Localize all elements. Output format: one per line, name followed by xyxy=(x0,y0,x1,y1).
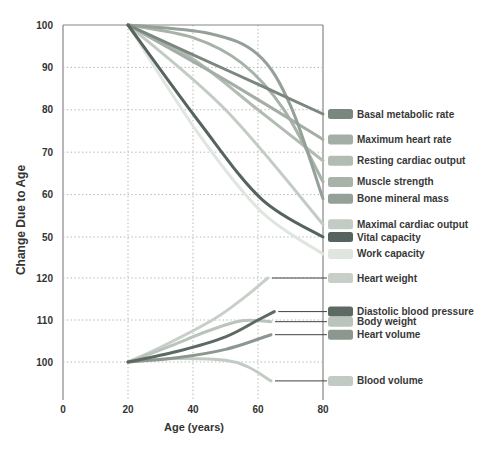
y-axis-title: Change Due to Age xyxy=(14,165,28,276)
legend-swatch-heart-volume xyxy=(328,330,353,340)
y-tick-label-declining-functions-100: 100 xyxy=(36,20,53,31)
legend-label-heart-volume: Heart volume xyxy=(357,329,421,340)
x-tick-label-40: 40 xyxy=(187,404,199,415)
y-tick-label-declining-functions-90: 90 xyxy=(42,62,54,73)
legend-label-vital-capacity: Vital capacity xyxy=(357,232,421,243)
legend-item-heart-weight: Heart weight xyxy=(328,273,418,284)
legend-label-heart-weight: Heart weight xyxy=(357,273,418,284)
x-tick-label-0: 0 xyxy=(60,404,66,415)
legend-swatch-muscle-strength xyxy=(328,177,353,187)
aging-chart: 1009080706050120110100020406080 Basal me… xyxy=(0,0,492,450)
legend-item-maximum-heart-rate: Maximum heart rate xyxy=(328,134,452,145)
legend-item-heart-volume: Heart volume xyxy=(328,329,421,340)
legend-item-basal-metabolic-rate: Basal metabolic rate xyxy=(328,109,455,120)
legend-item-bone-mineral-mass: Bone mineral mass xyxy=(328,193,449,204)
y-tick-label-increasing-functions-110: 110 xyxy=(37,315,54,326)
series-layer xyxy=(128,25,323,381)
y-tick-label-declining-functions-60: 60 xyxy=(42,189,54,200)
legend-item-resting-cardiac-output: Resting cardiac output xyxy=(328,155,466,166)
y-tick-label-increasing-functions-120: 120 xyxy=(36,273,53,284)
legend-swatch-vital-capacity xyxy=(328,232,353,242)
x-tick-label-80: 80 xyxy=(317,404,329,415)
y-tick-label-declining-functions-50: 50 xyxy=(42,232,54,243)
legend-label-maximal-cardiac-output: Maximal cardiac output xyxy=(357,219,469,230)
x-tick-label-60: 60 xyxy=(252,404,264,415)
legend-label-body-weight: Body weight xyxy=(357,316,417,327)
legend-swatch-heart-weight xyxy=(328,273,353,283)
legend-label-basal-metabolic-rate: Basal metabolic rate xyxy=(357,109,455,120)
legend-swatch-maximal-cardiac-output xyxy=(328,219,353,229)
y-tick-label-declining-functions-80: 80 xyxy=(42,104,54,115)
x-axis-title: Age (years) xyxy=(164,421,224,433)
legend-swatch-diastolic-blood-pressure xyxy=(328,307,353,317)
legend-swatch-bone-mineral-mass xyxy=(328,194,353,204)
legend-item-maximal-cardiac-output: Maximal cardiac output xyxy=(328,219,469,230)
aging-physiology-figure: 1009080706050120110100020406080 Basal me… xyxy=(0,0,492,450)
legend-swatch-maximum-heart-rate xyxy=(328,134,353,144)
legend-swatch-body-weight xyxy=(328,317,353,327)
legend-label-maximum-heart-rate: Maximum heart rate xyxy=(357,134,452,145)
legend-label-work-capacity: Work capacity xyxy=(357,248,425,259)
legend-item-body-weight: Body weight xyxy=(328,316,417,327)
y-tick-label-declining-functions-70: 70 xyxy=(42,147,54,158)
legend-label-bone-mineral-mass: Bone mineral mass xyxy=(357,193,449,204)
chart-legend: Basal metabolic rateMaximum heart rateRe… xyxy=(328,109,474,387)
legend-item-blood-volume: Blood volume xyxy=(328,375,424,386)
legend-swatch-resting-cardiac-output xyxy=(328,156,353,166)
series-line-vital-capacity xyxy=(128,25,323,237)
legend-swatch-blood-volume xyxy=(328,376,353,386)
legend-swatch-basal-metabolic-rate xyxy=(328,109,353,119)
legend-label-resting-cardiac-output: Resting cardiac output xyxy=(357,155,466,166)
legend-swatch-work-capacity xyxy=(328,249,353,259)
callout-layer xyxy=(272,278,327,381)
series-line-resting-cardiac-output xyxy=(128,25,323,161)
legend-label-muscle-strength: Muscle strength xyxy=(357,176,434,187)
legend-item-work-capacity: Work capacity xyxy=(328,248,425,259)
x-tick-label-20: 20 xyxy=(122,404,134,415)
legend-item-vital-capacity: Vital capacity xyxy=(328,232,421,243)
legend-label-blood-volume: Blood volume xyxy=(357,375,424,386)
y-tick-label-increasing-functions-100: 100 xyxy=(36,357,53,368)
legend-item-muscle-strength: Muscle strength xyxy=(328,176,434,187)
